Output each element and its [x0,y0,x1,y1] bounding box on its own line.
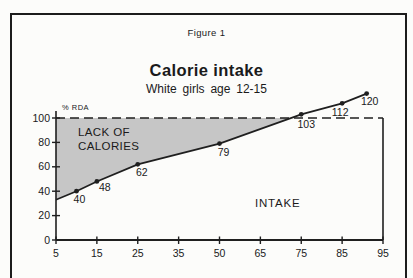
data-point-label: 62 [136,166,148,178]
x-tick-label: 65 [255,247,267,259]
y-tick-label: 60 [38,160,50,172]
x-tick-label: 15 [91,247,103,259]
data-point-marker [299,112,304,117]
lack-of-calories-label-line1: LACK OF [78,126,139,140]
lack-of-calories-label: LACK OF CALORIES [78,126,139,153]
data-point-label: 103 [297,118,315,130]
x-tick-label: 85 [336,247,348,259]
data-point-label: 120 [361,95,379,107]
x-tick-label: 5 [53,247,59,259]
data-point-label: 112 [332,106,349,118]
y-tick-label: 40 [38,185,50,197]
y-tick-label: 100 [32,112,50,124]
intake-area-label: INTAKE [255,197,300,209]
data-point-label: 48 [99,181,111,193]
x-tick-label: 35 [173,247,185,259]
x-tick-label: 75 [295,247,307,259]
x-tick-label: 95 [377,247,389,259]
x-tick-label: 50 [214,247,226,259]
data-point-label: 40 [74,193,86,205]
y-tick-label: 0 [44,234,50,246]
data-point-marker [340,101,345,106]
x-tick-label: 25 [132,247,144,259]
y-axis-unit-label: % RDA [62,103,89,112]
y-tick-label: 80 [38,136,50,148]
y-tick-label: 20 [38,209,50,221]
calorie-intake-chart: 5152535506575859502040608010040486279103… [0,0,413,278]
lack-of-calories-label-line2: CALORIES [78,140,139,154]
data-point-label: 79 [218,146,230,158]
